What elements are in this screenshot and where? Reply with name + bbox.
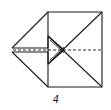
diagonal-crease-2b [50, 40, 64, 53]
inner-flap-bottom [12, 50, 64, 64]
diagonal-crease-1b [50, 47, 64, 60]
diagonal-crease-1 [48, 12, 102, 64]
step-number-label: 4 [50, 94, 62, 106]
left-flap-bottom-edge [12, 52, 48, 87]
left-flap-top-edge [12, 12, 48, 48]
diagonal-crease-2 [48, 36, 102, 87]
square-outline [48, 12, 102, 87]
